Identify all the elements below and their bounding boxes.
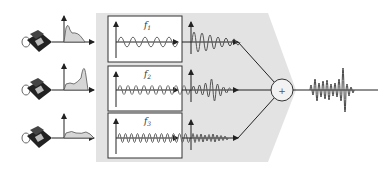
summing-junction: +: [271, 79, 293, 101]
telephone-icon: [22, 126, 52, 148]
voice-spectrum-1: [64, 25, 85, 42]
telephone-icon: [22, 78, 52, 100]
voice-spectrum-2: [64, 68, 88, 90]
voice-spectrum-3: [64, 132, 94, 139]
plus-symbol: +: [278, 86, 286, 96]
telephone-icon: [22, 30, 52, 52]
fdm-diagram: f1 f2: [0, 0, 391, 175]
